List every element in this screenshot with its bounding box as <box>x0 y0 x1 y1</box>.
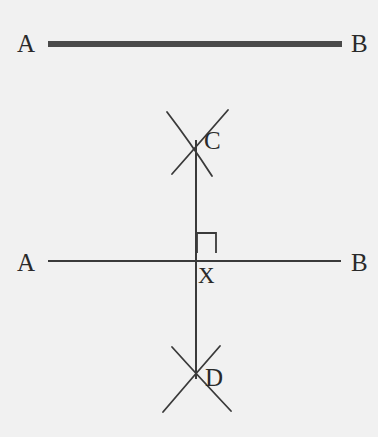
label-point-c: C <box>204 128 221 153</box>
label-point-a-top: A <box>17 31 35 56</box>
label-point-a-bottom: A <box>17 250 35 275</box>
label-point-b-top: B <box>351 31 368 56</box>
geometry-figure: A B C A B X D <box>0 0 378 437</box>
construction-drawing <box>0 0 378 437</box>
label-point-x: X <box>198 264 215 287</box>
label-point-b-bottom: B <box>351 250 368 275</box>
right-angle-marker-icon <box>197 233 216 253</box>
label-point-d: D <box>205 365 223 390</box>
